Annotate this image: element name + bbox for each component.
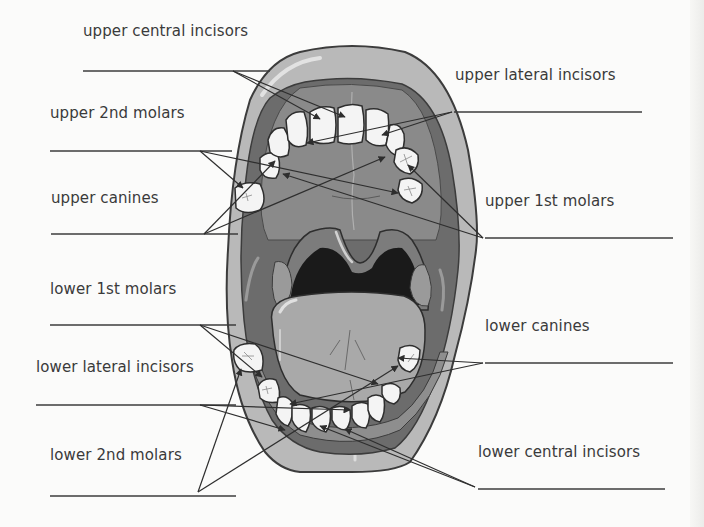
teeth-diagram: upper central incisors upper lateral inc… bbox=[0, 0, 704, 527]
label-lower-lateral-incisors: lower lateral incisors bbox=[36, 358, 194, 376]
label-lower-central-incisors: lower central incisors bbox=[478, 443, 640, 461]
label-upper-canines: upper canines bbox=[51, 189, 159, 207]
upper-lateral-right bbox=[366, 109, 389, 146]
label-upper-lateral-incisors: upper lateral incisors bbox=[455, 66, 616, 84]
label-lower-1st-molars: lower 1st molars bbox=[50, 280, 177, 298]
label-lower-canines: lower canines bbox=[485, 317, 590, 335]
upper-lateral-left bbox=[286, 112, 308, 147]
pointer-arrow-lower-2nd-molars-0 bbox=[198, 369, 241, 492]
label-upper-1st-molars: upper 1st molars bbox=[485, 192, 614, 210]
upper-central-right bbox=[338, 104, 364, 144]
upper-canine-left bbox=[268, 128, 289, 157]
lower-molar-left-2 bbox=[234, 344, 263, 372]
label-upper-2nd-molars: upper 2nd molars bbox=[50, 104, 185, 122]
label-upper-central-incisors: upper central incisors bbox=[83, 22, 248, 40]
label-lower-2nd-molars: lower 2nd molars bbox=[50, 446, 182, 464]
lower-molar-left-1 bbox=[258, 379, 280, 403]
